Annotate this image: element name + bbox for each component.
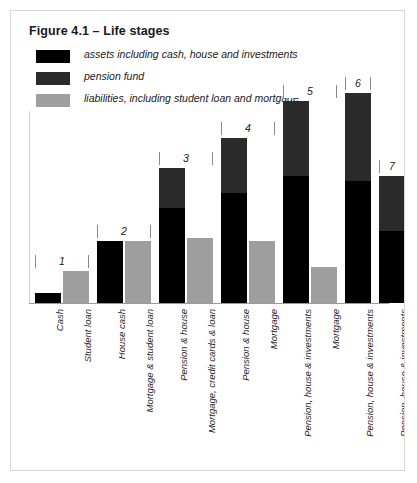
- bar-4-1: [221, 138, 247, 303]
- group-number-label: 4: [222, 122, 274, 135]
- bar-segment-pension: [379, 176, 405, 231]
- bar-segment-pension: [283, 101, 309, 176]
- bar-1-2: [63, 271, 89, 303]
- x-axis-label: Cash: [54, 309, 65, 331]
- bar-segment-liabilities: [63, 271, 89, 303]
- x-axis-label: Mortgage, credit cards & loan: [206, 309, 217, 433]
- group-bracket-4: 4: [221, 122, 275, 135]
- group-number-label: 1: [36, 255, 88, 268]
- y-axis-line: [29, 111, 30, 304]
- group-bracket-6: 6: [345, 77, 371, 90]
- bar-segment-liabilities: [311, 267, 337, 303]
- group-number-label: 6: [346, 77, 370, 90]
- bar-segment-assets: [159, 208, 185, 303]
- bar-2-2: [125, 241, 151, 303]
- bar-segment-assets: [283, 176, 309, 303]
- bar-1-1: [35, 293, 61, 303]
- group-bracket-3: 3: [159, 152, 213, 165]
- group-bracket-7: 7: [379, 160, 405, 173]
- bar-3-2: [187, 238, 213, 303]
- x-axis-label: Student loan: [82, 309, 93, 362]
- bar-2-1: [97, 241, 123, 303]
- bar-segment-liabilities: [249, 241, 275, 303]
- x-axis-label: Pension, house & investments: [364, 309, 375, 437]
- bar-segment-pension: [159, 168, 185, 208]
- group-number-label: 7: [380, 160, 404, 173]
- x-axis-label: Pension & house: [178, 309, 189, 381]
- bar-4-2: [249, 241, 275, 303]
- x-axis-label: Pension, house & investments: [302, 309, 313, 437]
- x-axis-label: House cash: [116, 309, 127, 359]
- x-axis-label: Mortgage: [268, 309, 279, 349]
- group-bracket-1: 1: [35, 255, 89, 268]
- bar-5-2: [311, 267, 337, 303]
- bar-segment-assets: [97, 241, 123, 303]
- bar-segment-pension: [345, 93, 371, 181]
- bar-segment-assets: [345, 181, 371, 303]
- group-number-label: 3: [160, 152, 212, 165]
- bar-segment-assets: [221, 193, 247, 303]
- x-axis-label: Mortgage: [330, 309, 341, 349]
- group-bracket-5: 5: [283, 85, 337, 98]
- x-axis-label: Mortgage & student loan: [144, 309, 155, 413]
- x-axis-label: Pension & house: [240, 309, 251, 381]
- bar-segment-pension: [221, 138, 247, 193]
- chart-plot-area: 1234567 CashStudent loanHouse cashMortga…: [11, 11, 405, 471]
- x-axis-line: [29, 303, 389, 304]
- bar-5-1: [283, 101, 309, 303]
- x-axis-label: Pension, house & investments: [398, 309, 405, 437]
- bar-6-1: [345, 93, 371, 303]
- group-number-label: 5: [284, 85, 336, 98]
- bar-segment-assets: [379, 231, 405, 303]
- bar-segment-assets: [35, 293, 61, 303]
- bar-segment-liabilities: [187, 238, 213, 303]
- figure-container: Figure 4.1 – Life stages assets includin…: [10, 10, 405, 471]
- bar-3-1: [159, 168, 185, 303]
- bar-segment-liabilities: [125, 241, 151, 303]
- bar-7-1: [379, 176, 405, 303]
- group-number-label: 2: [98, 225, 150, 238]
- group-bracket-2: 2: [97, 225, 151, 238]
